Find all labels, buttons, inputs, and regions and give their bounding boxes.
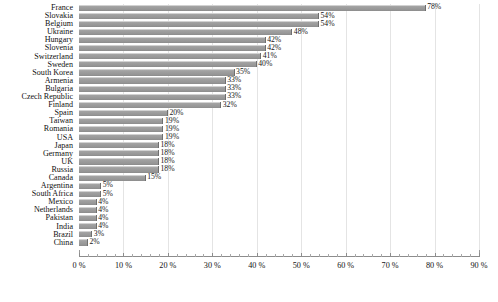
bar-row: 32%	[79, 101, 480, 109]
bar-row: 54%	[79, 12, 480, 20]
x-tick-major	[257, 253, 258, 257]
bar	[79, 183, 101, 189]
bar-value-label: 32%	[221, 101, 237, 109]
bar	[79, 142, 159, 148]
x-tick-major	[435, 253, 436, 257]
bar	[79, 158, 159, 164]
bar-row: 54%	[79, 20, 480, 28]
x-tick-minor	[408, 254, 409, 257]
bar-row: 5%	[79, 182, 480, 190]
x-tick-minor	[186, 254, 187, 257]
plot-area: 78%54%54%48%42%42%41%40%35%33%33%33%32%2…	[79, 4, 480, 256]
bar	[79, 215, 97, 221]
x-axis: 0 %10 %20 %30 %40 %50 %60 %70 %80 %90 %	[79, 256, 480, 302]
x-tick-minor	[115, 254, 116, 257]
bar	[79, 61, 257, 67]
bar	[79, 191, 101, 197]
x-tick-label: 60 %	[337, 261, 354, 270]
x-tick-minor	[399, 254, 400, 257]
category-axis: FranceSlovakiaBelgiumUkraineHungarySlove…	[0, 4, 76, 247]
bar-row: 18%	[79, 150, 480, 158]
bar	[79, 239, 88, 245]
bar	[79, 69, 235, 75]
x-tick-minor	[381, 254, 382, 257]
x-tick-major	[79, 253, 80, 257]
bar-row: 3%	[79, 231, 480, 239]
x-tick-minor	[355, 254, 356, 257]
x-tick-major	[123, 253, 124, 257]
x-tick-major	[168, 253, 169, 257]
x-tick-minor	[150, 254, 151, 257]
bar-row: 19%	[79, 125, 480, 133]
bar-row: 20%	[79, 109, 480, 117]
bar-row: 40%	[79, 61, 480, 69]
bar	[79, 13, 319, 19]
bar	[79, 207, 97, 213]
bar	[79, 126, 163, 132]
bar-row: 15%	[79, 174, 480, 182]
x-tick-major	[390, 253, 391, 257]
x-tick-major	[301, 253, 302, 257]
bar	[79, 110, 168, 116]
x-tick-minor	[283, 254, 284, 257]
x-tick-minor	[203, 254, 204, 257]
x-tick-minor	[141, 254, 142, 257]
bar-row: 35%	[79, 69, 480, 77]
x-tick-label: 40 %	[248, 261, 265, 270]
x-tick-minor	[328, 254, 329, 257]
bar-value-label: 18%	[159, 165, 175, 173]
x-tick-minor	[97, 254, 98, 257]
x-tick-label: 30 %	[204, 261, 221, 270]
bar-value-label: 15%	[146, 173, 162, 181]
x-tick-label: 0 %	[73, 261, 86, 270]
x-tick-minor	[266, 254, 267, 257]
bar-row: 41%	[79, 53, 480, 61]
x-tick-minor	[106, 254, 107, 257]
bar	[79, 86, 226, 92]
bar-row: 33%	[79, 85, 480, 93]
x-tick-minor	[337, 254, 338, 257]
bar-row: 4%	[79, 214, 480, 222]
x-tick-label: 80 %	[426, 261, 443, 270]
x-tick-minor	[310, 254, 311, 257]
bar-row: 78%	[79, 4, 480, 12]
bar-row: 19%	[79, 134, 480, 142]
x-tick-label: 90 %	[470, 261, 487, 270]
x-tick-label: 10 %	[115, 261, 132, 270]
bar-value-label: 40%	[257, 60, 273, 68]
x-tick-minor	[230, 254, 231, 257]
x-tick-label: 70 %	[382, 261, 399, 270]
bar-value-label: 48%	[292, 28, 308, 36]
x-tick-major	[479, 253, 480, 257]
x-tick-minor	[426, 254, 427, 257]
bar-row: 4%	[79, 223, 480, 231]
bar	[79, 45, 266, 51]
bar-value-label: 54%	[319, 20, 335, 28]
x-tick-major	[346, 253, 347, 257]
x-tick-minor	[177, 254, 178, 257]
x-tick-label: 50 %	[293, 261, 310, 270]
x-tick-minor	[132, 254, 133, 257]
bar	[79, 199, 97, 205]
bar-row: 2%	[79, 239, 480, 247]
bar	[79, 29, 292, 35]
x-tick-minor	[452, 254, 453, 257]
bar-row: 18%	[79, 166, 480, 174]
bar-row: 4%	[79, 198, 480, 206]
bar-row: 5%	[79, 190, 480, 198]
bar	[79, 77, 226, 83]
bar-row: 18%	[79, 158, 480, 166]
bar-row: 33%	[79, 77, 480, 85]
x-tick-minor	[372, 254, 373, 257]
bar-row: 4%	[79, 206, 480, 214]
x-tick-minor	[88, 254, 89, 257]
bar-row: 33%	[79, 93, 480, 101]
x-tick-minor	[275, 254, 276, 257]
x-tick-minor	[319, 254, 320, 257]
bar-chart: FranceSlovakiaBelgiumUkraineHungarySlove…	[0, 0, 498, 302]
bar-row: 18%	[79, 142, 480, 150]
x-tick-minor	[221, 254, 222, 257]
bar	[79, 118, 163, 124]
bar-value-label: 2%	[88, 238, 100, 246]
x-tick-label: 20 %	[159, 261, 176, 270]
